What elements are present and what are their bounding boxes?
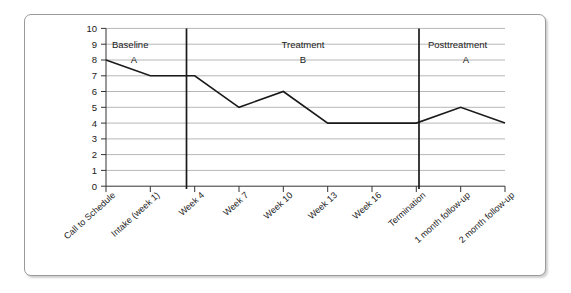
y-axis-label-4: 4 [92, 118, 97, 129]
figure-container: 10 9 8 7 6 5 4 3 2 1 0 Call [0, 0, 571, 293]
x-axis-label-week-13: Week 13 [306, 190, 339, 221]
x-axis-label-week-16: Week 16 [350, 190, 383, 221]
y-axis-labels: 10 9 8 7 6 5 4 3 2 1 0 [86, 23, 97, 192]
phase-letter-posttreatment: A [463, 54, 470, 65]
x-axis-ticks [106, 186, 505, 192]
x-axis-labels: Call to Schedule Intake (week 1) Week 4 … [62, 190, 516, 245]
x-axis-label-week-4: Week 4 [177, 190, 206, 218]
y-axis-label-2: 2 [92, 149, 97, 160]
phase-label-treatment: Treatment [282, 39, 325, 50]
x-axis-label-week-7: Week 7 [221, 190, 250, 218]
y-axis-label-6: 6 [92, 86, 97, 97]
line-chart: 10 9 8 7 6 5 4 3 2 1 0 Call [0, 0, 571, 293]
x-axis-label-termination: Termination [386, 190, 427, 229]
x-axis-label-week-10: Week 10 [262, 190, 295, 221]
x-axis-label-call-to-schedule: Call to Schedule [62, 190, 117, 241]
y-axis-label-5: 5 [92, 102, 97, 113]
gridlines [106, 28, 505, 170]
y-axis-label-9: 9 [92, 39, 97, 50]
phase-letter-treatment: B [300, 54, 306, 65]
y-axis-label-0: 0 [92, 181, 97, 192]
phase-label-posttreatment: Posttreatment [428, 39, 487, 50]
y-axis-label-7: 7 [92, 70, 97, 81]
phase-annotations: Baseline A Treatment B Posttreatment A [112, 39, 487, 66]
phase-label-baseline: Baseline [112, 39, 148, 50]
y-axis-label-8: 8 [92, 54, 97, 65]
y-axis-label-10: 10 [86, 23, 97, 34]
y-axis-ticks [101, 28, 106, 186]
phase-letter-baseline: A [131, 54, 138, 65]
y-axis-label-3: 3 [92, 133, 97, 144]
y-axis-label-1: 1 [92, 165, 97, 176]
